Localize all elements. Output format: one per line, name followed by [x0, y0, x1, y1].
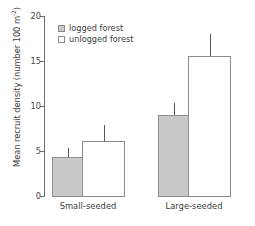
x-axis-label-small-seeded: Small-seeded — [48, 201, 128, 211]
legend-swatch-icon — [58, 36, 65, 43]
legend-item-label: logged forest — [69, 23, 123, 34]
y-axis-title-superscript: -2 — [10, 10, 17, 16]
y-tick-label: 15 — [31, 56, 41, 66]
x-axis-label-large-seeded: Large-seeded — [154, 201, 234, 211]
bar-small-seeded-logged-forest — [52, 157, 83, 197]
chart-legend: logged forestunlogged forest — [58, 23, 133, 45]
y-axis-title: Mean recruit density (number 100 m-2) — [12, 0, 22, 187]
bar-small-seeded-unlogged-forest — [82, 141, 125, 197]
bar-large-seeded-logged-forest — [158, 115, 189, 197]
chart-figure: Mean recruit density (number 100 m-2) 05… — [0, 0, 255, 226]
y-axis-title-end: ) — [12, 7, 22, 10]
legend-item-label: unlogged forest — [69, 34, 133, 45]
legend-swatch-icon — [58, 25, 65, 32]
y-tick-label: 10 — [31, 101, 41, 111]
legend-item-logged: logged forest — [58, 23, 133, 34]
legend-item-unlogged: unlogged forest — [58, 34, 133, 45]
y-axis-title-main: Mean recruit density (number 100 m — [12, 16, 22, 167]
y-tick-label: 5 — [36, 146, 41, 156]
y-tick-label: 0 — [36, 191, 41, 201]
y-tick-label: 20 — [31, 11, 41, 21]
bar-large-seeded-unlogged-forest — [188, 56, 231, 197]
